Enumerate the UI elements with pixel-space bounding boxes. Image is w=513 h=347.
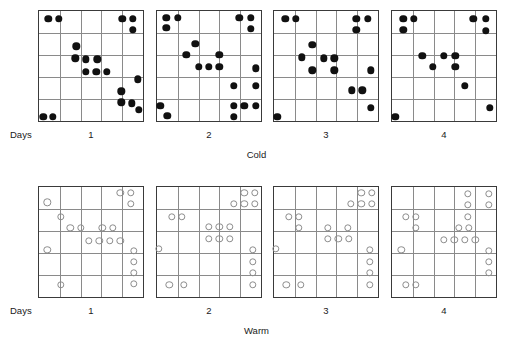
filled-circle-marker [49, 113, 56, 120]
open-circle-marker [205, 223, 212, 230]
open-circle-marker [272, 245, 279, 252]
filled-circle-marker [103, 68, 110, 75]
warm-band-caption: Warm [0, 324, 513, 338]
open-circle-marker [440, 236, 447, 243]
open-circle-marker [368, 189, 375, 196]
open-circle-marker [106, 237, 113, 244]
filled-circle-marker [82, 56, 89, 63]
open-circle-marker [130, 258, 137, 265]
open-circle-marker [358, 189, 365, 196]
gridline-horizontal [392, 99, 496, 100]
filled-circle-marker [418, 52, 425, 59]
filled-circle-marker [247, 14, 254, 21]
open-circle-marker [297, 281, 304, 288]
filled-circle-marker [73, 42, 80, 49]
open-circle-marker [241, 189, 248, 196]
open-circle-marker [471, 236, 478, 243]
open-circle-marker [358, 200, 365, 207]
filled-circle-marker [429, 63, 436, 70]
filled-circle-marker [364, 15, 371, 22]
filled-circle-marker [163, 14, 170, 21]
gridline-vertical [316, 187, 317, 297]
cold-panel-day-3[interactable] [273, 10, 379, 122]
filled-circle-marker [367, 104, 374, 111]
cold-panel-day-1[interactable] [38, 10, 144, 122]
gridline-horizontal [39, 55, 143, 56]
gridline-vertical [60, 11, 61, 121]
gridline-horizontal [274, 275, 378, 276]
filled-circle-marker [486, 104, 493, 111]
open-circle-marker [412, 281, 419, 288]
open-circle-marker [127, 200, 134, 207]
gridline-horizontal [274, 77, 378, 78]
filled-circle-marker [134, 75, 141, 82]
filled-circle-marker [400, 15, 407, 22]
cold-band: Days 1 2 3 4 Cold [0, 0, 513, 175]
warm-panel-day-2[interactable] [156, 186, 262, 298]
filled-circle-marker [164, 112, 171, 119]
gridline-horizontal [392, 33, 496, 34]
filled-circle-marker [92, 68, 99, 75]
gridline-horizontal [274, 231, 378, 232]
filled-circle-marker [195, 63, 202, 70]
warm-day-tick-1: 1 [38, 304, 144, 318]
gridline-vertical [81, 187, 82, 297]
gridline-horizontal [157, 33, 261, 34]
gridline-vertical [336, 187, 337, 297]
gridline-horizontal [392, 275, 496, 276]
gridline-horizontal [39, 275, 143, 276]
filled-circle-marker [252, 64, 259, 71]
cold-panel-day-2[interactable] [156, 10, 262, 122]
filled-circle-marker [163, 24, 170, 31]
open-circle-marker [464, 213, 471, 220]
filled-circle-marker [117, 88, 124, 95]
cold-panels-row [0, 10, 513, 122]
warm-day-tick-3: 3 [273, 304, 379, 318]
filled-circle-marker [282, 15, 289, 22]
open-circle-marker [249, 281, 256, 288]
open-circle-marker [451, 236, 458, 243]
filled-circle-marker [452, 52, 459, 59]
filled-circle-marker [216, 63, 223, 70]
open-circle-marker [44, 199, 51, 206]
filled-circle-marker [241, 102, 248, 109]
filled-circle-marker [391, 113, 398, 120]
open-circle-marker [230, 200, 237, 207]
warm-axis-labels: Days 1 2 3 4 [0, 304, 513, 322]
filled-circle-marker [440, 52, 447, 59]
open-circle-marker [335, 235, 342, 242]
open-circle-marker [155, 245, 162, 252]
cold-panel-day-4[interactable] [391, 10, 497, 122]
gridline-vertical [316, 11, 317, 121]
gridline-vertical [101, 11, 102, 121]
open-circle-marker [412, 213, 419, 220]
open-circle-marker [226, 235, 233, 242]
warm-panels-row [0, 186, 513, 298]
warm-days-axis-label: Days [10, 304, 32, 318]
open-circle-marker [57, 213, 64, 220]
open-circle-marker [285, 213, 292, 220]
filled-circle-marker [55, 15, 62, 22]
open-circle-marker [485, 258, 492, 265]
gridline-horizontal [392, 253, 496, 254]
gridline-vertical [81, 11, 82, 121]
open-circle-marker [347, 200, 354, 207]
gridline-vertical [178, 11, 179, 121]
warm-panel-day-1[interactable] [38, 186, 144, 298]
open-circle-marker [402, 281, 409, 288]
gridline-horizontal [39, 99, 143, 100]
filled-circle-marker [482, 15, 489, 22]
filled-circle-marker [129, 15, 136, 22]
filled-circle-marker [452, 63, 459, 70]
warm-panel-day-3[interactable] [273, 186, 379, 298]
filled-circle-marker [359, 86, 366, 93]
filled-circle-marker [45, 15, 52, 22]
filled-circle-marker [252, 102, 259, 109]
filled-circle-marker [252, 82, 259, 89]
warm-band: Days 1 2 3 4 Warm [0, 176, 513, 347]
warm-panel-day-4[interactable] [391, 186, 497, 298]
open-circle-marker [85, 237, 92, 244]
filled-circle-marker [273, 113, 280, 120]
open-circle-marker [345, 235, 352, 242]
filled-circle-marker [230, 82, 237, 89]
